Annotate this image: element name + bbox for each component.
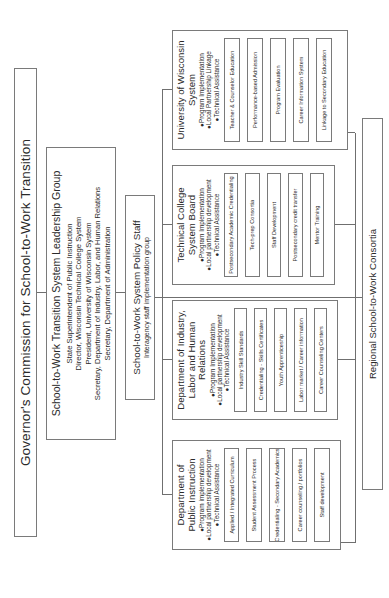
- dept-name: Technical College: [176, 170, 187, 280]
- dept-bullet: ●Program Implementation: [198, 35, 205, 145]
- leadership-group-title: School-to-Work Transition System Leaders…: [50, 171, 62, 417]
- dept-bullet: ●Technical Assistance: [213, 35, 220, 145]
- connector-dpi-drop: [162, 494, 172, 495]
- connector-governor-leadership: [36, 292, 46, 293]
- dept-name: Public Instruction: [187, 445, 198, 545]
- governor-commission-box: Governor's Commission for School-to-Work…: [14, 68, 37, 537]
- dept-bullet: ●Program Implementation: [198, 170, 205, 280]
- connector-tcsb-drop: [162, 224, 172, 225]
- dept-bullet: ●Technical Assistance: [223, 305, 230, 415]
- connector-policy-stem: [155, 297, 362, 298]
- org-chart: Governor's Commission for School-to-Work…: [0, 0, 389, 598]
- dept-item-box: Career Counseling Centers: [314, 308, 327, 412]
- dept-item-box: Industry Skill Standards: [234, 308, 247, 412]
- connector-dilhr-up: [338, 359, 355, 360]
- dept-name: University of Wisconsin: [176, 35, 187, 145]
- policy-staff-box: School-to-Work System Policy Staff Inter…: [125, 195, 155, 400]
- connector-dpi-up: [341, 542, 355, 543]
- dept-public-instruction-box: Department of Public Instruction ●Progra…: [172, 440, 341, 550]
- dept-item-box: Staff Development: [267, 173, 281, 277]
- leadership-member: President, University of Wisconsin Syste…: [84, 222, 93, 364]
- policy-staff-subtitle: Interagency staff implementation group: [143, 237, 150, 358]
- dept-item-box: Labor market / Career information: [294, 308, 307, 412]
- connector-uw-drop: [162, 89, 172, 90]
- connector-tcsb-up: [335, 224, 355, 225]
- dept-item-box: Linkage to Secondary Education: [316, 38, 332, 142]
- regional-consortia-box: Regional School-to-Work Consortia: [362, 118, 383, 490]
- dept-bullet: ●Local Partnership Linkage: [205, 35, 212, 145]
- connector-regional-bus: [355, 133, 356, 543]
- dept-bullet: ●Local partnership development: [205, 170, 212, 280]
- dept-name: System: [187, 35, 198, 145]
- dept-item-box: Student Assessment Process: [246, 448, 262, 542]
- dept-technical-college-box: Technical College System Board ●Program …: [172, 165, 335, 285]
- connector-dept-bus: [162, 90, 163, 495]
- dept-item-box: Credentialing - Secondary Academics: [269, 448, 285, 542]
- dept-university-wisconsin-box: University of Wisconsin System ●Program …: [172, 30, 348, 150]
- leadership-group-box: School-to-Work Transition System Leaders…: [46, 147, 116, 440]
- policy-staff-title: School-to-Work System Policy Staff: [131, 220, 142, 374]
- dept-bullet: ●Local partnership development: [205, 445, 212, 545]
- dept-bullet: ●Program Implementation: [209, 305, 216, 415]
- dept-item-box: Career Information System: [293, 38, 309, 142]
- dept-name: Department of: [176, 445, 187, 545]
- dept-name: Department of Industry,: [176, 305, 187, 415]
- dept-name: Labor and Human Relations: [187, 305, 208, 415]
- dept-item-box: Staff development: [314, 448, 330, 542]
- dept-bullet: ●Program implementation: [198, 445, 205, 545]
- leadership-member: Secretary, Department of Industry, Labor…: [93, 187, 102, 400]
- leadership-member: State Superintendent of Public Instructi…: [65, 224, 74, 364]
- connector-leadership-policy: [116, 292, 125, 293]
- dept-item-box: Youth Apprenticeship: [274, 308, 287, 412]
- dept-bullet: ●Technical Assistance: [213, 170, 220, 280]
- regional-consortia-title: Regional School-to-Work Consortia: [367, 229, 378, 379]
- dept-item-box: Applied / Integrated Curriculum: [224, 448, 240, 542]
- dept-item-box: Career counseling / portfolios: [292, 448, 308, 542]
- connector-uw-up: [348, 132, 355, 133]
- governor-commission-title: Governor's Commission for School-to-Work…: [18, 139, 33, 466]
- dept-bullet: ●Technical Assistance: [213, 445, 220, 545]
- dept-item-box: Mentor Training: [310, 173, 324, 277]
- dept-bullet: ●Local partnership development: [216, 305, 223, 415]
- dept-item-box: Teacher & Counselor Education: [224, 38, 240, 142]
- dept-item-box: Postsecondary Academic Credentialing: [224, 173, 238, 277]
- leadership-member: Secretary, Department of Administration: [103, 226, 112, 360]
- connector-regional-stem: [355, 297, 362, 298]
- dept-item-box: Credentialing - Skills Certificates: [254, 308, 267, 412]
- dept-item-box: Tech-prep Consortia: [245, 173, 259, 277]
- dept-industry-labor-box: Department of Industry, Labor and Human …: [172, 300, 338, 420]
- dept-name: System Board: [187, 170, 198, 280]
- connector-dilhr-drop: [162, 359, 172, 360]
- dept-item-box: Performance-based Admission: [247, 38, 263, 142]
- dept-item-box: Postsecondary credit transfer: [288, 173, 302, 277]
- leadership-member: Director, Wisconsin Technical College Sy…: [74, 217, 83, 371]
- dept-item-box: Program Evaluation: [270, 38, 286, 142]
